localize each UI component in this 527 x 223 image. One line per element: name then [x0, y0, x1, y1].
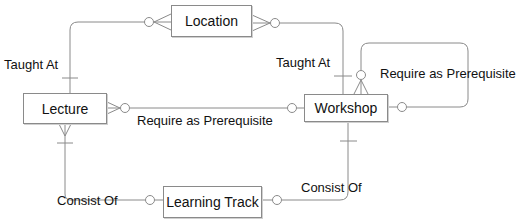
- entity-lecture-label: Lecture: [42, 101, 89, 117]
- relationship-label-lecture-track: Consist Of: [57, 193, 118, 208]
- relationship-label-lecture-workshop: Require as Prerequisite: [137, 113, 273, 128]
- entity-workshop-label: Workshop: [315, 100, 378, 116]
- entity-lecture[interactable]: Lecture: [23, 93, 107, 124]
- entity-location-label: Location: [185, 13, 238, 29]
- relationship-label-workshop-track: Consist Of: [301, 180, 362, 195]
- relationship-label-lecture-location: Taught At: [4, 57, 58, 72]
- relationship-label-workshop-self: Require as Prerequisite: [380, 66, 516, 81]
- entity-learning-track[interactable]: Learning Track: [163, 186, 262, 218]
- relationship-label-workshop-location: Taught At: [276, 55, 330, 70]
- line-lecture-location: [62, 14, 171, 93]
- entity-workshop[interactable]: Workshop: [304, 94, 388, 122]
- entity-learning-track-label: Learning Track: [166, 194, 259, 210]
- entity-location[interactable]: Location: [171, 5, 252, 37]
